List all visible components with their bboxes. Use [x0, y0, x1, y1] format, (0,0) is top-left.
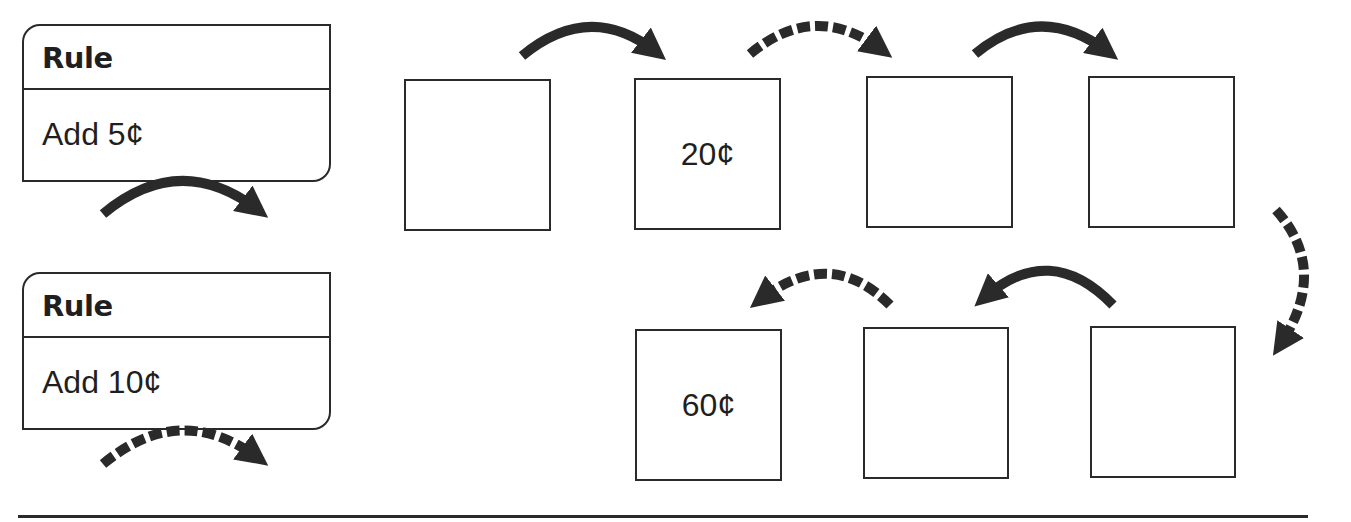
arrows-layer	[0, 0, 1351, 522]
solid-arrow-icon	[522, 27, 656, 56]
dashed-arrow-icon	[103, 430, 258, 464]
dashed-arrow-icon	[760, 274, 890, 305]
dashed-arrow-icon	[1276, 210, 1304, 345]
dashed-arrow-icon	[750, 26, 882, 54]
solid-arrow-icon	[975, 26, 1108, 54]
solid-arrow-icon	[984, 271, 1113, 305]
divider-line	[18, 515, 1308, 518]
solid-arrow-icon	[103, 181, 258, 214]
